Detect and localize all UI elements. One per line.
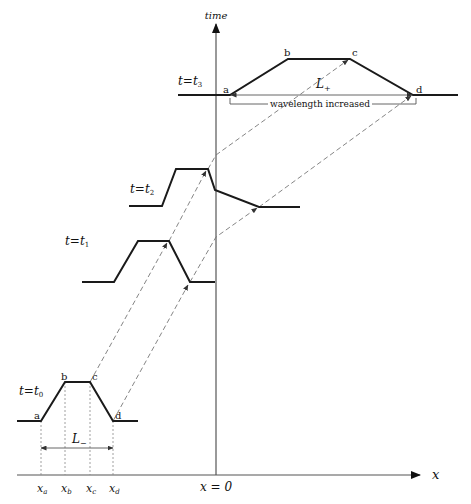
wave-steepening-diagram: time x x = 0 xa xb xc xd L− t=t0 a b c d… xyxy=(0,0,471,504)
svg-text:xa: xa xyxy=(37,482,47,496)
initial-wavelength-label: L− xyxy=(71,432,87,448)
x-tick-b: xb xyxy=(61,482,72,496)
point-a-t3: a xyxy=(223,84,229,95)
time-axis-label: time xyxy=(205,10,228,21)
stage-label-t1: t=t1 xyxy=(65,234,89,249)
wavelength-increased-note: wavelength increased xyxy=(270,99,370,109)
bracket-right xyxy=(372,98,416,104)
point-a-t0: a xyxy=(34,410,40,421)
point-d-t3: d xyxy=(416,84,423,95)
point-c-t0: c xyxy=(92,371,98,382)
stage-label-t2: t=t2 xyxy=(130,182,154,197)
bracket-left xyxy=(230,98,268,104)
point-d-t0: d xyxy=(115,410,122,421)
svg-text:xd: xd xyxy=(109,482,120,496)
origin-label: x = 0 xyxy=(200,480,232,494)
point-c-t3: c xyxy=(352,47,358,58)
final-wavelength-label: L+ xyxy=(315,77,331,93)
svg-text:xc: xc xyxy=(86,482,96,496)
point-b-t0: b xyxy=(61,371,67,382)
x-tick-c: xc xyxy=(86,482,96,496)
point-b-t3: b xyxy=(284,47,290,58)
stage-label-t0: t=t0 xyxy=(19,384,43,399)
stage-label-t3: t=t3 xyxy=(178,74,202,89)
x-tick-a: xa xyxy=(37,482,47,496)
x-axis-label: x xyxy=(432,467,440,482)
wave-t2 xyxy=(129,169,300,207)
svg-text:xb: xb xyxy=(61,482,72,496)
x-tick-d: xd xyxy=(109,482,120,496)
